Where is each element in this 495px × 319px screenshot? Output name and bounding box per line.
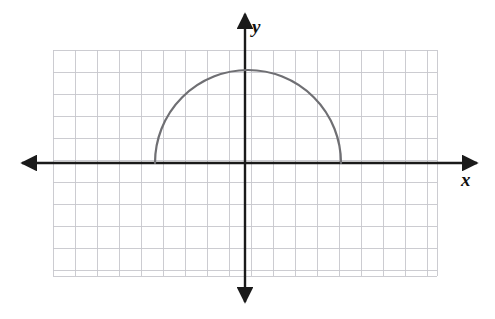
x-axis-label: x [461,170,471,189]
semicircle-curve [155,70,341,163]
coordinate-plane-svg [0,0,495,319]
y-axis-label: y [252,17,260,36]
graph-figure: y x [0,0,495,319]
